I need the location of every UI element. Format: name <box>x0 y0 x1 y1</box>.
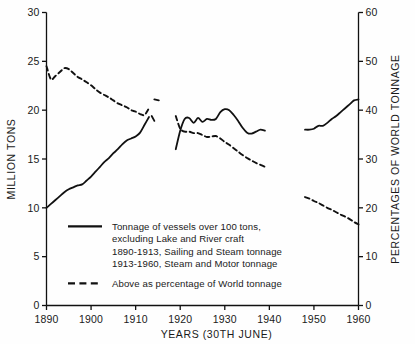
y-tick-label-right: 10 <box>366 250 378 262</box>
series-line-solid <box>152 116 155 121</box>
series-line-dashed <box>47 66 150 115</box>
y-tick-label-left: 5 <box>33 250 39 262</box>
y-tick-label-left: 10 <box>27 202 39 214</box>
y-tick-label-right: 0 <box>366 299 372 311</box>
legend-label-solid: Tonnage of vessels over 100 tons, <box>112 221 261 232</box>
series-line-solid <box>176 109 265 149</box>
x-tick-label: 1920 <box>168 313 192 325</box>
x-tick-label: 1890 <box>34 313 58 325</box>
y-tick-label-right: 60 <box>366 6 378 18</box>
series-line-dashed <box>176 116 265 167</box>
series-line-solid <box>47 117 150 208</box>
y-axis-title-right: PERCENTAGES OF WORLD TONNAGE <box>389 54 401 263</box>
legend-label-solid: 1913-1960, Steam and Motor tonnage <box>112 258 278 269</box>
x-tick-label: 1900 <box>79 313 103 325</box>
series-line-dashed <box>305 197 358 224</box>
y-tick-label-left: 30 <box>27 6 39 18</box>
y-tick-label-right: 30 <box>366 153 378 165</box>
y-tick-label-right: 20 <box>366 202 378 214</box>
legend-label-solid: 1890-1913, Sailing and Steam tonnage <box>112 246 282 257</box>
x-tick-label: 1930 <box>213 313 237 325</box>
y-tick-label-left: 25 <box>27 55 39 67</box>
x-tick-label: 1950 <box>302 313 326 325</box>
y-axis-title-left: MILLION TONS <box>5 119 17 200</box>
legend-label-dashed: Above as percentage of World tonnage <box>112 278 282 289</box>
y-tick-label-left: 0 <box>33 299 39 311</box>
series-line-solid <box>305 99 358 129</box>
x-tick-label: 1940 <box>257 313 281 325</box>
line-chart-svg: 0510152025300102030405060189019001910192… <box>0 0 415 344</box>
x-tick-label: 1960 <box>346 313 370 325</box>
x-tick-label: 1910 <box>124 313 148 325</box>
chart-figure: 0510152025300102030405060189019001910192… <box>0 0 415 344</box>
y-tick-label-left: 20 <box>27 104 39 116</box>
y-tick-label-right: 40 <box>366 104 378 116</box>
y-tick-label-right: 50 <box>366 55 378 67</box>
series-line-dashed <box>154 99 158 100</box>
legend-label-solid: excluding Lake and River craft <box>112 233 244 244</box>
y-tick-label-left: 15 <box>27 153 39 165</box>
x-axis-title: YEARS (30TH JUNE) <box>161 328 273 340</box>
